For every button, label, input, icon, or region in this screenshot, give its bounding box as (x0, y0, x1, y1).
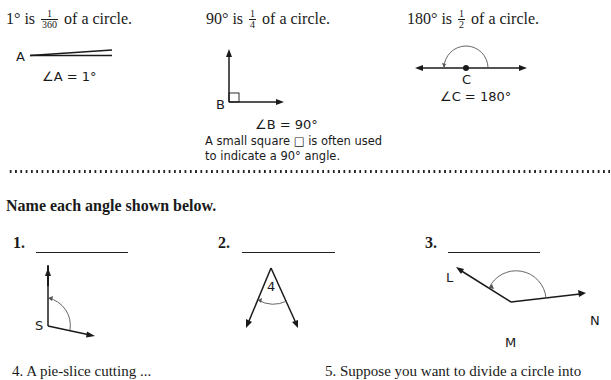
one-degree-angle-diagram (0, 40, 200, 90)
question-5-cutoff-text: 5. Suppose you want to divide a circle i… (325, 363, 581, 380)
fraction: 14 (249, 9, 256, 30)
is-text: is (232, 10, 243, 27)
right-angle-note: A small square □ is often used to indica… (205, 134, 382, 164)
question-2-angle-diagram (200, 260, 320, 340)
angle-c-equation: ∠C = 180° (440, 89, 511, 104)
question-4-cutoff-text: 4. A pie-slice cutting ... (12, 363, 151, 380)
note-line-2: to indicate a 90° angle. (205, 149, 382, 164)
example-2-caption: 90° is 14 of a circle. (206, 10, 330, 31)
degree-value: 1° (6, 10, 20, 27)
dotted-divider (8, 170, 611, 173)
vertex-label-a: A (16, 49, 25, 64)
is-text: is (24, 10, 35, 27)
vertex-label-b: B (216, 97, 225, 112)
question-1-angle-rays (0, 260, 120, 340)
degree-value: 90° (206, 10, 228, 27)
point-label-m: M (505, 335, 516, 350)
point-label-n: N (590, 313, 600, 328)
angle-label-4: 4 (267, 279, 275, 294)
fraction: 1360 (41, 9, 58, 30)
question-3-number: 3. (425, 234, 437, 252)
question-2-number: 2. (218, 234, 230, 252)
question-3-answer-blank[interactable] (448, 252, 540, 253)
vertex-label-c: C (462, 72, 471, 87)
point-label-l: L (446, 270, 453, 285)
note-line-1: A small square □ is often used (205, 134, 382, 149)
angle-a-equation: ∠A = 1° (42, 69, 96, 84)
is-text: is (441, 10, 452, 27)
instructions: Name each angle shown below. (6, 197, 216, 215)
question-2-answer-blank[interactable] (242, 252, 335, 253)
fraction: 12 (458, 9, 465, 30)
question-1-number: 1. (13, 234, 25, 252)
caption-suffix: of a circle. (64, 10, 132, 27)
angle-b-equation: ∠B = 90° (255, 117, 318, 132)
caption-suffix: of a circle. (262, 10, 330, 27)
right-angle-diagram (200, 40, 300, 110)
vertex-label-s: S (35, 318, 43, 333)
question-1-answer-blank[interactable] (36, 252, 128, 253)
example-3-caption: 180° is 12 of a circle. (407, 10, 539, 31)
caption-suffix: of a circle. (471, 10, 539, 27)
question-3-angle-diagram (400, 260, 611, 340)
example-1-caption: 1° is 1360 of a circle. (6, 10, 132, 31)
degree-value: 180° (407, 10, 437, 27)
